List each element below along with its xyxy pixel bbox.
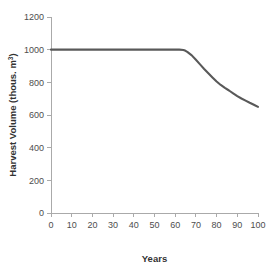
x-tick-label: 20: [87, 220, 97, 230]
y-axis-ticks: [47, 17, 51, 213]
x-tick-label: 30: [108, 220, 118, 230]
x-tick-label: 90: [232, 220, 242, 230]
x-tick-label: 60: [170, 220, 180, 230]
x-tick-label: 10: [67, 220, 77, 230]
y-tick-label: 1000: [24, 45, 44, 55]
x-tick-label: 40: [129, 220, 139, 230]
y-tick-label: 1200: [24, 12, 44, 22]
y-tick-label: 0: [39, 208, 44, 218]
x-tick-label: 50: [149, 220, 159, 230]
line-chart: 020040060080010001200 010203040506070809…: [0, 0, 270, 276]
y-axis-tick-labels: 020040060080010001200: [24, 12, 44, 218]
x-tick-label: 0: [48, 220, 53, 230]
x-tick-label: 80: [212, 220, 222, 230]
x-axis-tick-labels: 0102030405060708090100: [48, 220, 265, 230]
x-tick-label: 100: [250, 220, 265, 230]
y-axis-title-group: Harvest Volume (thous. m3): [7, 53, 18, 176]
y-tick-label: 600: [29, 110, 44, 120]
y-tick-label: 800: [29, 78, 44, 88]
y-tick-label: 200: [29, 176, 44, 186]
y-axis-title: Harvest Volume (thous. m3): [7, 53, 18, 176]
x-tick-label: 70: [191, 220, 201, 230]
chart-container: 020040060080010001200 010203040506070809…: [0, 0, 270, 276]
x-axis-ticks: [51, 213, 258, 217]
x-axis-title: Years: [142, 253, 167, 264]
plot-area: [51, 17, 258, 213]
y-tick-label: 400: [29, 143, 44, 153]
